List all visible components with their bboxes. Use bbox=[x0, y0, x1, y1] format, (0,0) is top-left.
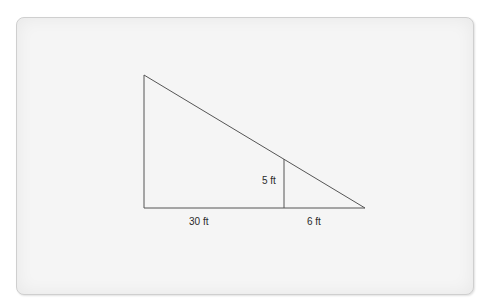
base-right-label: 6 ft bbox=[307, 216, 321, 227]
base-left-label: 30 ft bbox=[189, 216, 209, 227]
triangle-hypotenuse bbox=[144, 75, 365, 208]
triangle-diagram: 5 ft 30 ft 6 ft bbox=[0, 0, 489, 308]
inner-height-label: 5 ft bbox=[262, 175, 276, 186]
